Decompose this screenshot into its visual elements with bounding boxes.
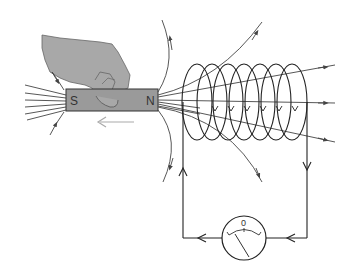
motion-arrow <box>98 117 134 127</box>
field-lines-south <box>25 72 66 135</box>
north-pole-label: N <box>146 94 155 108</box>
galvanometer-zero-label: 0 <box>241 218 246 228</box>
galvanometer: 0 <box>222 216 266 260</box>
field-lines-north <box>158 20 335 182</box>
south-pole-label: S <box>70 94 78 108</box>
induction-diagram: S N <box>0 0 343 274</box>
